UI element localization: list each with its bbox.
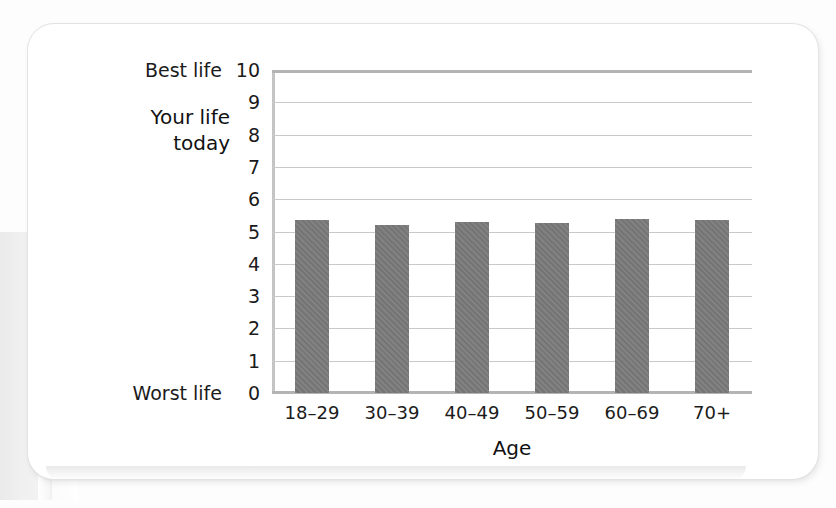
bar bbox=[455, 222, 489, 393]
y-tick-label-2: 2 bbox=[230, 319, 260, 338]
y-tick-label-3: 3 bbox=[230, 287, 260, 306]
x-tick-label: 70+ bbox=[666, 404, 758, 422]
bar bbox=[615, 219, 649, 393]
figure-page: Your life today Best life Worst life 109… bbox=[0, 0, 836, 508]
y-tick-label-5: 5 bbox=[230, 223, 260, 242]
y-axis-max-label: Best life bbox=[0, 61, 222, 80]
y-tick-label-1: 1 bbox=[230, 352, 260, 371]
x-axis-title: Age bbox=[272, 436, 752, 460]
y-tick-label-0: 0 bbox=[230, 384, 260, 403]
bar bbox=[695, 220, 729, 393]
y-tick-label-10: 10 bbox=[230, 61, 260, 80]
plot-area bbox=[272, 70, 752, 393]
y-tick-label-9: 9 bbox=[230, 93, 260, 112]
x-tick-label: 18–29 bbox=[266, 404, 358, 422]
bar bbox=[375, 225, 409, 393]
y-tick-label-4: 4 bbox=[230, 255, 260, 274]
x-tick-label: 40–49 bbox=[426, 404, 518, 422]
y-axis-min-label: Worst life bbox=[0, 384, 222, 403]
y-tick-label-8: 8 bbox=[230, 126, 260, 145]
bar bbox=[295, 220, 329, 393]
y-tick-label-6: 6 bbox=[230, 190, 260, 209]
x-tick-label: 50–59 bbox=[506, 404, 598, 422]
y-axis-title-line-1: Your life bbox=[54, 105, 230, 131]
y-axis-title: Your life today bbox=[54, 105, 230, 156]
figure-card-bottom-shadow bbox=[46, 466, 746, 480]
y-tick-label-7: 7 bbox=[230, 158, 260, 177]
bar bbox=[535, 223, 569, 393]
y-axis-title-line-2: today bbox=[54, 131, 230, 157]
x-tick-label: 60–69 bbox=[586, 404, 678, 422]
bar-series bbox=[272, 70, 752, 393]
x-tick-label: 30–39 bbox=[346, 404, 438, 422]
